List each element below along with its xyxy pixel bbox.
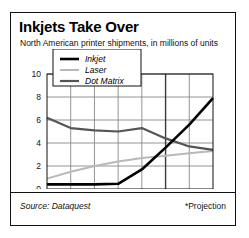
y-tick-label: 8 [36, 92, 41, 102]
projection-note: *Projection [185, 201, 226, 211]
chart-title: Inkjets Take Over [19, 18, 139, 35]
y-tick-label: 0 [36, 184, 41, 189]
chart-figure: Inkjets Take Over North American printer… [10, 12, 236, 226]
y-tick-label: 10 [32, 69, 42, 79]
y-tick-label: 2 [36, 161, 41, 171]
y-tick-label: 6 [36, 115, 41, 125]
series-line-laser [47, 151, 213, 179]
legend-label-inkjet: Inkjet [85, 54, 106, 64]
series-line-dot-matrix [47, 118, 213, 150]
plot-area: 0246810 1988'89'90'91'92'93'94*'95* Inkj… [11, 49, 236, 189]
line-chart-svg: 0246810 1988'89'90'91'92'93'94*'95* Inkj… [11, 49, 236, 189]
y-axis-ticks: 0246810 [32, 69, 42, 189]
legend-label-laser: Laser [85, 65, 107, 75]
y-tick-label: 4 [36, 138, 41, 148]
chart-legend: InkjetLaserDot Matrix [53, 49, 141, 86]
chart-subtitle: North American printer shipments, in mil… [20, 38, 218, 48]
source-note: Source: Dataquest [20, 201, 90, 211]
data-series [47, 98, 213, 184]
footer-divider [11, 192, 235, 193]
legend-label-dot-matrix: Dot Matrix [85, 76, 124, 86]
